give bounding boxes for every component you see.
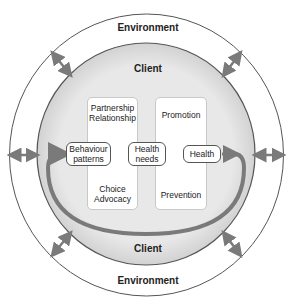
health-needs-node: Health needs [128, 142, 166, 166]
health-model-diagram: Environment Client Client Environment Pa… [0, 0, 296, 306]
behaviour-patterns-node: Behaviour patterns [66, 142, 111, 166]
health-label: Health [190, 149, 215, 159]
behaviour-line2: patterns [73, 154, 104, 164]
environment-label-bottom: Environment [0, 275, 296, 286]
health-node: Health [183, 145, 221, 163]
relationship-label: Relationship [88, 113, 137, 123]
client-label-bottom: Client [0, 243, 296, 254]
behaviour-line1: Behaviour [69, 144, 107, 154]
environment-label-top: Environment [0, 22, 296, 33]
partnership-label: Partnership [88, 103, 137, 113]
promotion-label: Promotion [156, 110, 206, 120]
needs-line1: Health [135, 144, 160, 154]
needs-line2: needs [135, 154, 158, 164]
advocacy-label: Advocacy [88, 194, 137, 204]
client-label-top: Client [0, 63, 296, 74]
choice-label: Choice [88, 184, 137, 194]
prevention-label: Prevention [156, 190, 206, 200]
